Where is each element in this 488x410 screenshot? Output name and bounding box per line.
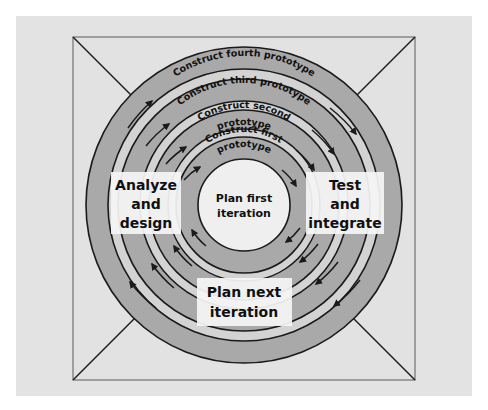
- plan-next-line2: iteration: [210, 304, 278, 320]
- test-line3: integrate: [308, 215, 382, 231]
- quadrant-analyze-and-design: Analyze and design: [111, 172, 181, 234]
- plan-next-line1: Plan next: [207, 284, 282, 300]
- center-circle: [198, 159, 290, 251]
- analyze-line1: Analyze: [115, 177, 177, 193]
- test-line2: and: [330, 196, 359, 212]
- analyze-line2: and: [131, 196, 160, 212]
- quadrant-test-and-integrate: Test and integrate: [306, 172, 384, 234]
- quadrant-plan-next-iteration: Plan next iteration: [197, 278, 292, 326]
- spiral-diagram-canvas: Construct fourth prototype Construct thi…: [0, 0, 488, 410]
- test-line1: Test: [329, 177, 362, 193]
- center-label-line1: Plan first: [216, 192, 272, 205]
- center-label-line2: iteration: [217, 207, 271, 220]
- analyze-line3: design: [120, 215, 173, 231]
- spiral-diagram-figure: Construct fourth prototype Construct thi…: [0, 0, 488, 410]
